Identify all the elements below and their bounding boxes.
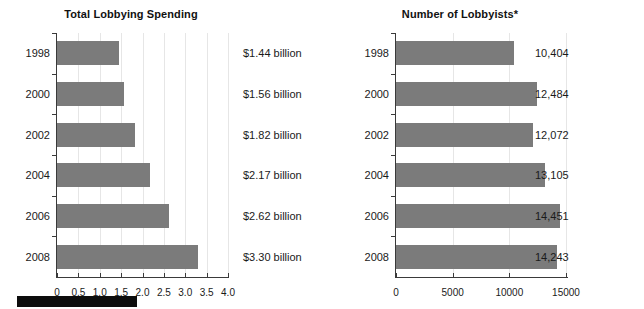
bar-row xyxy=(57,41,228,65)
category-label: 1998 xyxy=(338,41,389,65)
x-tick-mark xyxy=(396,273,397,278)
bar xyxy=(396,123,533,147)
category-label: 2000 xyxy=(0,82,50,106)
bar-row xyxy=(57,123,228,147)
x-tick-mark xyxy=(121,273,122,278)
x-tick-mark xyxy=(185,273,186,278)
category-label: 2006 xyxy=(338,204,389,228)
y-tick-mark xyxy=(391,236,396,237)
category-label: 1998 xyxy=(0,41,50,65)
category-label: 2008 xyxy=(338,245,389,269)
plot-area-spending: 00.51.01.52.02.53.03.54.0 1998$1.44 bill… xyxy=(57,33,228,277)
value-label: 14,451 xyxy=(535,204,569,228)
gridline xyxy=(185,33,186,277)
value-label: $1.44 billion xyxy=(243,41,302,65)
y-tick-mark xyxy=(391,114,396,115)
y-tick-mark xyxy=(391,33,396,34)
gridline xyxy=(78,33,79,277)
gridline xyxy=(207,33,208,277)
gridline xyxy=(121,33,122,277)
x-tick-mark xyxy=(228,273,229,278)
bar-row xyxy=(57,82,228,106)
bar xyxy=(57,163,150,187)
y-tick-mark xyxy=(52,74,57,75)
y-tick-mark xyxy=(52,155,57,156)
category-label: 2002 xyxy=(338,123,389,147)
y-tick-mark xyxy=(391,155,396,156)
bar xyxy=(57,204,169,228)
category-label: 2006 xyxy=(0,204,50,228)
x-tick-label: 10000 xyxy=(495,287,523,298)
gridline xyxy=(566,33,567,277)
y-tick-mark xyxy=(52,236,57,237)
chart-title-lobbyists: Number of Lobbyists* xyxy=(322,8,644,20)
y-tick-mark xyxy=(52,114,57,115)
plot-area-lobbyists: 050001000015000 199810,404200012,4842002… xyxy=(396,33,566,277)
x-tick-label: 0 xyxy=(393,287,399,298)
gridline xyxy=(228,33,229,277)
gridline xyxy=(509,33,510,277)
x-tick-mark xyxy=(566,273,567,278)
value-label: 12,484 xyxy=(535,82,569,106)
y-tick-mark xyxy=(52,33,57,34)
bar xyxy=(57,41,119,65)
category-label: 2004 xyxy=(338,163,389,187)
bar xyxy=(57,245,198,269)
x-tick-label: 15000 xyxy=(552,287,580,298)
value-label: 13,105 xyxy=(535,163,569,187)
category-label: 2000 xyxy=(338,82,389,106)
x-tick-label: 2.0 xyxy=(136,287,150,298)
gridline xyxy=(453,33,454,277)
x-tick-mark xyxy=(100,273,101,278)
value-label: $1.56 billion xyxy=(243,82,302,106)
x-tick-label: 5000 xyxy=(442,287,464,298)
gridline xyxy=(143,33,144,277)
gridline xyxy=(100,33,101,277)
y-tick-mark xyxy=(391,74,396,75)
category-label: 2002 xyxy=(0,123,50,147)
x-tick-mark xyxy=(143,273,144,278)
value-label: $1.82 billion xyxy=(243,123,302,147)
value-label: $3.30 billion xyxy=(243,245,302,269)
bar xyxy=(396,245,557,269)
y-tick-mark xyxy=(391,196,396,197)
x-tick-label: 2.5 xyxy=(157,287,171,298)
bar-row xyxy=(57,204,228,228)
value-label: 14,243 xyxy=(535,245,569,269)
x-tick-label: 3.5 xyxy=(200,287,214,298)
category-label: 2004 xyxy=(0,163,50,187)
category-label: 2008 xyxy=(0,245,50,269)
bar xyxy=(396,41,514,65)
chart-panel-number-of-lobbyists: Number of Lobbyists* 050001000015000 199… xyxy=(322,0,644,309)
x-axis-line-lobbyists xyxy=(395,277,568,278)
bar-row xyxy=(57,163,228,187)
x-tick-label: 4.0 xyxy=(221,287,235,298)
value-label: $2.17 billion xyxy=(243,163,302,187)
x-tick-label: 3.0 xyxy=(178,287,192,298)
bar-row xyxy=(57,245,228,269)
x-tick-mark xyxy=(207,273,208,278)
bar xyxy=(57,82,124,106)
y-tick-mark xyxy=(52,196,57,197)
bar xyxy=(57,123,135,147)
value-label: 12,072 xyxy=(535,123,569,147)
bar xyxy=(396,163,545,187)
x-tick-mark xyxy=(57,273,58,278)
chart-title-spending: Total Lobbying Spending xyxy=(0,8,322,20)
value-label: $2.62 billion xyxy=(243,204,302,228)
x-tick-mark xyxy=(164,273,165,278)
x-tick-mark xyxy=(78,273,79,278)
x-tick-mark xyxy=(453,273,454,278)
bar xyxy=(396,82,537,106)
gridline xyxy=(164,33,165,277)
redaction-bar xyxy=(17,296,137,307)
chart-panel-total-lobbying-spending: Total Lobbying Spending 00.51.01.52.02.5… xyxy=(0,0,322,309)
value-label: 10,404 xyxy=(535,41,569,65)
x-tick-mark xyxy=(509,273,510,278)
